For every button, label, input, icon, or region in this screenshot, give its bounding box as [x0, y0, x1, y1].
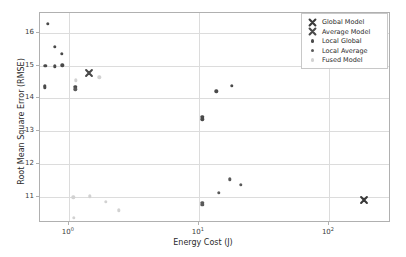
legend-item[interactable]: Average Model	[305, 27, 383, 36]
legend-label: Local Average	[320, 47, 368, 55]
data-point-dot	[200, 118, 203, 121]
legend-cross-icon	[305, 27, 320, 36]
gridline-horizontal	[40, 98, 389, 99]
data-point-dot	[239, 183, 242, 186]
y-tick-mark	[36, 32, 39, 33]
legend-item[interactable]: Local Global	[305, 37, 383, 46]
legend-swatch	[305, 58, 320, 61]
gridline-vertical	[69, 13, 70, 221]
y-tick-label: 11	[25, 192, 34, 200]
y-tick-mark	[36, 163, 39, 164]
data-point-dot	[117, 209, 120, 212]
data-point-dot	[230, 84, 233, 87]
data-point-dot	[104, 200, 107, 203]
data-point-dot	[74, 87, 77, 90]
data-point-dot	[53, 64, 56, 67]
y-tick-mark	[36, 97, 39, 98]
data-point-dot	[44, 64, 47, 67]
y-tick-label: 16	[25, 28, 34, 36]
data-point-dot	[53, 45, 56, 48]
x-axis-label: Energy Cost (J)	[0, 238, 406, 247]
chart-figure: Root Mean Square Error (RMSE) 1112131415…	[0, 0, 406, 257]
legend-label: Local Global	[320, 37, 362, 45]
data-point-dot	[46, 22, 49, 25]
x-tick-label: 102	[322, 226, 334, 236]
legend-swatch	[305, 49, 320, 52]
legend-item[interactable]: Local Average	[305, 46, 383, 55]
x-tick-label: 100	[62, 226, 74, 236]
legend-swatch	[305, 39, 320, 42]
data-point-cross	[360, 196, 369, 205]
y-tick-label: 13	[25, 126, 34, 134]
x-tick-mark	[198, 222, 199, 225]
data-point-dot	[60, 52, 63, 55]
legend-item[interactable]: Fused Model	[305, 56, 383, 65]
data-point-cross	[85, 69, 94, 78]
legend-dot-icon	[311, 58, 314, 61]
gridline-horizontal	[40, 197, 389, 198]
y-tick-mark	[36, 65, 39, 66]
legend-label: Fused Model	[320, 56, 363, 64]
y-tick-mark	[36, 130, 39, 131]
data-point-dot	[217, 191, 220, 194]
data-point-dot	[72, 216, 75, 219]
data-point-dot	[215, 90, 218, 93]
data-point-dot	[43, 86, 46, 89]
x-tick-label: 101	[192, 226, 204, 236]
gridline-horizontal	[40, 131, 389, 132]
x-tick-mark	[68, 222, 69, 225]
data-point-dot	[228, 178, 231, 181]
chart-legend: Global ModelAverage ModelLocal GlobalLoc…	[301, 13, 388, 69]
legend-label: Average Model	[320, 28, 370, 36]
y-tick-label: 14	[25, 93, 34, 101]
legend-item[interactable]: Global Model	[305, 18, 383, 27]
data-point-dot	[71, 196, 74, 199]
legend-cross-icon	[305, 18, 320, 27]
y-tick-label: 12	[25, 159, 34, 167]
data-point-dot	[74, 79, 77, 82]
legend-dot-icon	[311, 39, 314, 42]
y-tick-label: 15	[25, 61, 34, 69]
x-tick-mark	[328, 222, 329, 225]
y-tick-mark	[36, 196, 39, 197]
legend-label: Global Model	[320, 18, 364, 26]
gridline-horizontal	[40, 164, 389, 165]
data-point-dot	[98, 76, 101, 79]
data-point-dot	[200, 203, 203, 206]
legend-dot-icon	[311, 49, 314, 52]
